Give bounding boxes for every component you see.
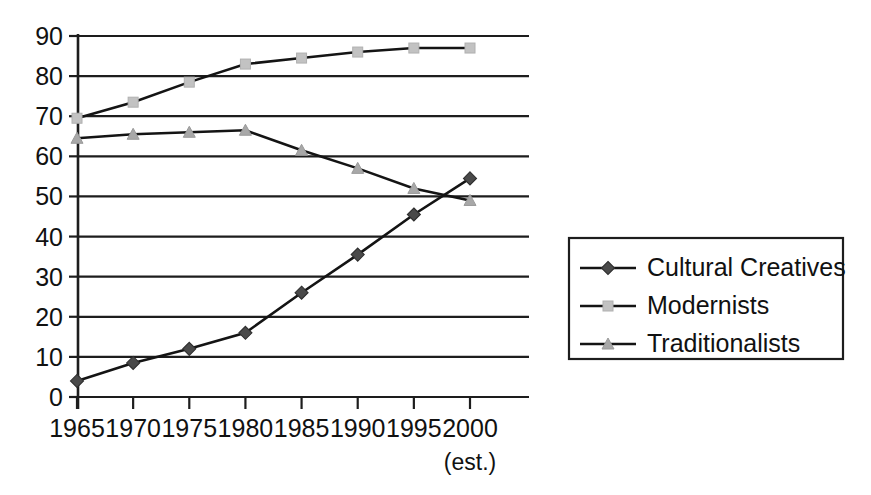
data-point-marker xyxy=(184,77,194,87)
series-line-0 xyxy=(77,178,470,381)
y-tick-label: 60 xyxy=(35,142,63,170)
y-tick-label: 30 xyxy=(35,263,63,291)
y-tick-label: 70 xyxy=(35,102,63,130)
y-axis-tick-labels: 0102030405060708090 xyxy=(35,22,63,411)
x-tick-label: 1970 xyxy=(105,414,161,442)
y-tick-label: 0 xyxy=(49,383,63,411)
series-markers-group xyxy=(71,43,477,387)
y-tick-label: 10 xyxy=(35,343,63,371)
x-tick-label: 1980 xyxy=(218,414,274,442)
line-chart: 0102030405060708090 19651970197519801985… xyxy=(0,0,871,495)
gridlines-group xyxy=(78,36,529,397)
data-point-marker xyxy=(127,356,140,369)
x-axis-tick-labels: 19651970197519801985199019952000(est.) xyxy=(49,414,498,475)
data-point-marker xyxy=(297,53,307,63)
data-point-marker xyxy=(465,43,475,53)
legend-swatch-marker xyxy=(603,301,613,311)
chart-canvas: 0102030405060708090 19651970197519801985… xyxy=(0,0,871,495)
x-tick-label: 1965 xyxy=(49,414,105,442)
y-tick-label: 90 xyxy=(35,22,63,50)
x-tick-label: 1990 xyxy=(330,414,386,442)
y-tick-label: 80 xyxy=(35,62,63,90)
legend-item-label: Modernists xyxy=(647,291,769,319)
x-axis-estimate-note: (est.) xyxy=(444,449,496,475)
y-tick-label: 40 xyxy=(35,223,63,251)
x-tick-label: 1985 xyxy=(274,414,330,442)
x-tick-label: 1975 xyxy=(161,414,217,442)
x-tick-label: 2000 xyxy=(442,414,498,442)
data-point-marker xyxy=(353,47,363,57)
data-point-marker xyxy=(128,97,138,107)
x-tick-marks-group xyxy=(77,397,470,409)
data-point-marker xyxy=(71,374,84,387)
data-point-marker xyxy=(409,43,419,53)
data-point-marker xyxy=(72,113,82,123)
legend-item-label: Cultural Creatives xyxy=(647,253,846,281)
data-point-marker xyxy=(183,342,196,355)
data-point-marker xyxy=(240,59,250,69)
data-point-marker xyxy=(464,172,477,185)
y-tick-marks-group xyxy=(69,36,78,397)
chart-legend[interactable]: Cultural CreativesModernistsTraditionali… xyxy=(569,238,846,359)
legend-item-label: Traditionalists xyxy=(647,329,800,357)
y-tick-label: 50 xyxy=(35,182,63,210)
series-line-1 xyxy=(77,48,470,118)
y-tick-label: 20 xyxy=(35,303,63,331)
x-tick-label: 1995 xyxy=(386,414,442,442)
